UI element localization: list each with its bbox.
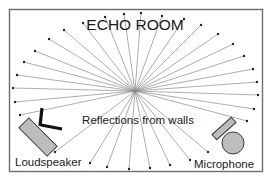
ray-endpoint-dot (63, 29, 65, 31)
center-label: Reflections from walls (82, 114, 194, 126)
ray-endpoint-dot (106, 166, 108, 168)
ray-endpoint-dot (54, 151, 56, 153)
ray-endpoint-dot (16, 74, 18, 76)
diagram-title: ECHO ROOM (86, 16, 183, 33)
ray-endpoint-dot (128, 168, 130, 170)
ray-endpoint-dot (253, 108, 255, 110)
ray-endpoint-dot (252, 68, 254, 70)
ray-endpoint-dot (12, 87, 14, 89)
ray-endpoint-dot (19, 114, 21, 116)
ray-endpoint-dot (123, 13, 125, 15)
ray-endpoint-dot (14, 101, 16, 103)
loudspeaker-label: Loudspeaker (15, 156, 82, 168)
ray-endpoint-dot (149, 167, 151, 169)
echo-room-diagram: ECHO ROOM Reflections from walls Loudspe… (0, 0, 271, 181)
ray-endpoint-dot (169, 164, 171, 166)
ray-endpoint-dot (34, 50, 36, 52)
ray-endpoint-dot (256, 81, 258, 83)
ray-endpoint-dot (189, 159, 191, 161)
ray-endpoint-dot (200, 24, 202, 26)
ray-endpoint-dot (23, 61, 25, 63)
ray-endpoint-dot (257, 94, 259, 96)
ray-endpoint-dot (246, 120, 248, 122)
microphone-label: Microphone (194, 158, 254, 170)
ray-endpoint-dot (243, 55, 245, 57)
ray-endpoint-dot (207, 151, 209, 153)
ray-endpoint-dot (89, 162, 91, 164)
ray-endpoint-dot (232, 43, 234, 45)
ray-endpoint-dot (82, 22, 84, 24)
ray-endpoint-dot (217, 33, 219, 35)
ray-endpoint-dot (48, 38, 50, 40)
ray-endpoint-dot (140, 12, 142, 14)
